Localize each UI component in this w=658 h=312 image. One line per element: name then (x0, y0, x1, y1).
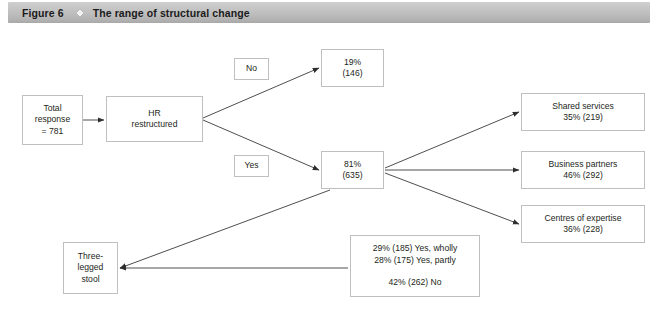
node-yes-result: 81% (635) (321, 151, 384, 189)
flowchart: Total response = 781HR restructuredNoYes… (0, 0, 658, 312)
node-hr-restructured: HR restructured (106, 96, 203, 142)
node-no-result: 19% (146) (321, 49, 384, 87)
node-business-partners: Business partners 46% (292) (521, 151, 645, 189)
node-shared-services: Shared services 35% (219) (521, 93, 645, 131)
edge-yes-to-stool (120, 190, 330, 268)
edge-yes-to-shared (385, 112, 519, 168)
figure-root: Figure 6 The range of structural change … (0, 0, 658, 312)
node-total-response: Total response = 781 (22, 95, 83, 145)
edge-yes-to-centres (385, 173, 519, 224)
node-centres-of-expertise: Centres of expertise 36% (228) (521, 205, 645, 243)
node-label-yes: Yes (234, 155, 269, 177)
node-three-legged-stool: Three- legged stool (63, 242, 118, 294)
node-stool-breakdown: 29% (185) Yes, wholly 28% (175) Yes, par… (350, 235, 480, 297)
node-label-no: No (234, 58, 269, 80)
